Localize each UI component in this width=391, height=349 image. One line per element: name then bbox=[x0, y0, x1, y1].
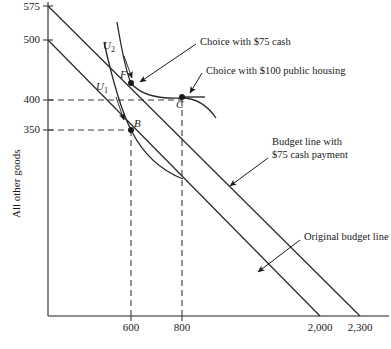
y-tick-label-350: 350 bbox=[8, 124, 40, 135]
annotation-choice-cash: Choice with $75 cash bbox=[200, 36, 291, 48]
y-tick-label-500: 500 bbox=[8, 34, 40, 45]
curve-label-u1-sub: 1 bbox=[104, 86, 108, 95]
budget-lines bbox=[48, 6, 360, 316]
leader-choice-housing bbox=[190, 73, 202, 93]
curve-label-u2-base: U bbox=[103, 39, 111, 51]
curve-label-u1: U1 bbox=[96, 81, 108, 95]
point-label-f: F bbox=[120, 69, 127, 80]
point-label-c: C bbox=[176, 99, 183, 110]
budget-line-with-75-cash bbox=[48, 6, 360, 316]
curve-label-u2-sub: 2 bbox=[111, 45, 115, 54]
chart-container: 575 500 400 350 All other goods 600 800 … bbox=[0, 0, 391, 349]
annotation-budget-original: Original budget line bbox=[304, 231, 389, 243]
annotation-budget-cash-line1: Budget line with bbox=[272, 136, 342, 148]
y-tick-label-575: 575 bbox=[8, 1, 40, 12]
point-label-b: B bbox=[134, 118, 141, 129]
y-tick-label-400: 400 bbox=[8, 94, 40, 105]
original-budget-line bbox=[48, 40, 320, 316]
x-tick-label-600: 600 bbox=[111, 322, 151, 333]
x-tick-label-800: 800 bbox=[162, 322, 202, 333]
x-tick-label-2000: 2,000 bbox=[300, 322, 340, 333]
annotation-choice-housing: Choice with $100 public housing bbox=[206, 65, 345, 77]
indifference-curve-u1 bbox=[104, 42, 183, 179]
leader-budget-original bbox=[258, 240, 300, 272]
chart-canvas bbox=[0, 0, 391, 349]
x-tick-label-2300: 2,300 bbox=[340, 322, 380, 333]
point-f bbox=[128, 80, 134, 86]
leader-budget-cash bbox=[230, 158, 268, 186]
annotation-budget-cash-line2: $75 cash payment bbox=[272, 149, 348, 161]
y-axis-title: All other goods bbox=[11, 150, 22, 218]
leader-choice-cash bbox=[140, 44, 196, 82]
curve-label-u1-base: U bbox=[96, 80, 104, 92]
curve-label-u2: U2 bbox=[103, 40, 115, 54]
guide-lines bbox=[48, 100, 182, 311]
